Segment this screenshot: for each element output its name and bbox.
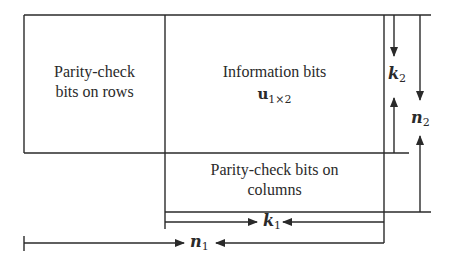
information-symbol: u1×2 [165,84,384,110]
n1-label: n1 [190,232,209,253]
info-vector-u: u [257,85,268,103]
n2-label: n2 [411,108,430,129]
information-bits-label: Information bits u1×2 [165,62,384,110]
parity-rows-line1: Parity-check [24,62,165,82]
parity-columns-line2: columns [165,180,384,200]
k2-label: k2 [388,64,406,85]
parity-columns-label: Parity-check bits on columns [165,160,384,200]
info-vector-subscript: 1×2 [268,93,291,106]
k1-label: k1 [263,211,281,232]
parity-rows-line2: bits on rows [24,82,165,102]
information-line1: Information bits [165,62,384,82]
parity-rows-label: Parity-check bits on rows [24,62,165,102]
diagram-lines [0,0,452,266]
parity-columns-line1: Parity-check bits on [165,160,384,180]
